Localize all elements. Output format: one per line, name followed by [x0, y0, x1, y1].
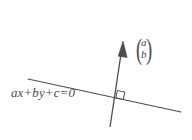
right-angle-marker	[116, 90, 125, 99]
normal-vector-arrowhead	[118, 41, 127, 58]
vector-close-paren: )	[145, 35, 151, 62]
line-equation-label: ax+by+c=0	[11, 86, 75, 99]
normal-vector-shaft	[110, 52, 121, 127]
diagram-canvas	[0, 0, 192, 140]
vector-open-paren: (	[136, 35, 142, 62]
geometry-diagram: ax+by+c=0 ( a b )	[0, 0, 192, 140]
normal-vector-label: ( a b )	[134, 35, 154, 62]
